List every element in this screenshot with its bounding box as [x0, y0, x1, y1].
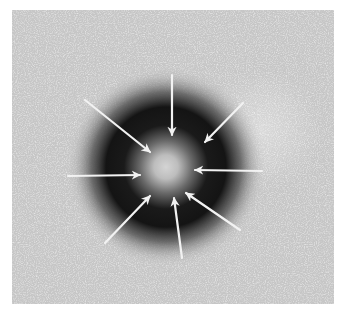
- arrow-right-icon: [195, 170, 262, 171]
- arrow-left-icon: [68, 175, 140, 176]
- halo-scene: [12, 10, 334, 304]
- image-frame: Grayscale micrograph-style image: noisy …: [0, 0, 346, 313]
- dark-halo-ring: [66, 67, 266, 267]
- micrograph-plate: [12, 10, 334, 304]
